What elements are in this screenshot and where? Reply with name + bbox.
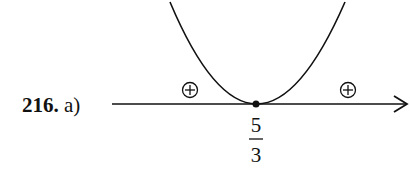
root-numerator: 5 <box>251 113 262 137</box>
sign-diagram: 216. a) 5 3 <box>0 0 410 169</box>
plus-sign-left-icon <box>183 83 198 98</box>
parabola-curve <box>170 2 345 104</box>
problem-number: 216. <box>22 93 59 117</box>
root-denominator: 3 <box>251 143 262 167</box>
problem-part: a) <box>64 93 80 117</box>
plus-sign-right-icon <box>341 83 356 98</box>
root-point <box>253 101 260 108</box>
